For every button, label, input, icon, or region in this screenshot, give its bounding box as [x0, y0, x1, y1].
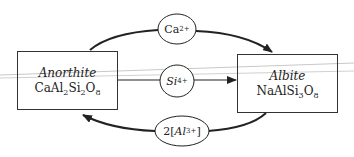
ca-arrow-right-segment — [196, 31, 272, 52]
anorthite-box: Anorthite CaAl2Si2O8 — [17, 51, 118, 110]
al-ion-label: 2[Al3+] — [155, 116, 209, 146]
al-arrow-right-segment — [208, 113, 266, 131]
anorthite-name: Anorthite — [39, 66, 97, 81]
si-ion-label: Si4+ — [160, 65, 194, 97]
albite-name: Albite — [270, 69, 306, 84]
ca-ion-label: Ca2+ — [158, 14, 196, 44]
albite-box: Albite NaAlSi3O8 — [237, 54, 338, 113]
anorthite-formula: CaAl2Si2O8 — [34, 81, 100, 96]
albite-formula: NaAlSi3O8 — [256, 84, 318, 99]
al-arrow-left-segment — [83, 115, 155, 131]
ca-arrow-left-segment — [90, 30, 158, 50]
